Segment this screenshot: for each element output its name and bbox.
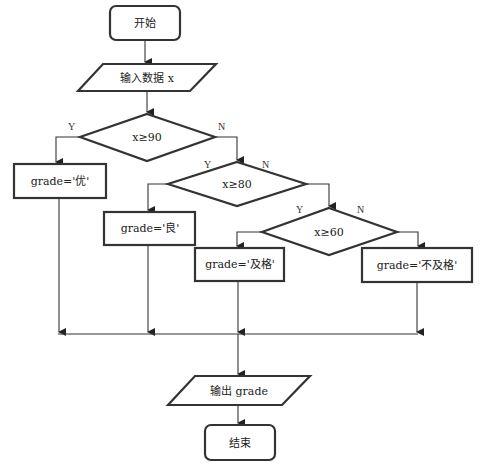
arrow-d1-no	[215, 137, 237, 160]
arrow-d3-yes	[237, 232, 262, 246]
output-node: 输出 grade	[168, 376, 310, 405]
input-node: 输入数据 x	[78, 64, 216, 91]
process-excellent: grade='优'	[14, 164, 106, 198]
decision-2-yes-label: Y	[204, 159, 211, 170]
start-label: 开始	[134, 16, 156, 30]
decision-2: x≥80	[168, 162, 306, 206]
arrow-d2-yes	[148, 184, 168, 210]
decision-3-yes-label: Y	[296, 204, 303, 215]
end-node: 结束	[205, 425, 275, 460]
decision-3-no-label: N	[357, 204, 364, 215]
process-fail: grade='不及格'	[362, 248, 472, 282]
flowchart-canvas: 开始 输入数据 x x≥90 Y N grade='优' x≥80 Y N gr…	[0, 0, 483, 476]
process-fail-label: grade='不及格'	[377, 258, 458, 272]
process-excellent-label: grade='优'	[31, 175, 90, 188]
decision-1-label: x≥90	[132, 131, 161, 144]
decision-1: x≥90	[80, 114, 215, 161]
output-label: 输出 grade	[210, 384, 268, 398]
arrow-d3-no	[397, 232, 418, 246]
decision-2-label: x≥80	[222, 178, 251, 191]
decision-3-label: x≥60	[314, 226, 343, 239]
decision-1-yes-label: Y	[68, 121, 75, 132]
input-label: 输入数据 x	[120, 71, 174, 85]
process-pass-label: grade='及格'	[205, 257, 275, 271]
process-good-label: grade='良'	[121, 221, 180, 235]
start-node: 开始	[110, 6, 180, 40]
process-good: grade='良'	[104, 212, 195, 245]
decision-2-no-label: N	[262, 159, 269, 170]
arrow-d2-no	[306, 184, 329, 206]
arrow-d1-yes	[56, 137, 80, 162]
end-label: 结束	[229, 437, 251, 450]
process-pass: grade='及格'	[195, 248, 284, 281]
decision-1-no-label: N	[218, 121, 225, 132]
